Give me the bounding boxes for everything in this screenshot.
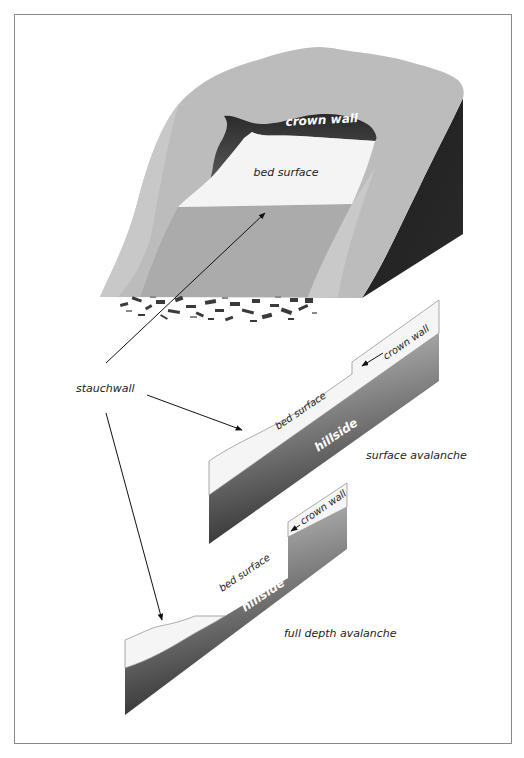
mountain-bed-surface-label: bed surface — [254, 166, 319, 179]
arrow-to-full-depth-profile — [106, 413, 162, 620]
mountain-block: crown wall bed surface — [100, 47, 464, 322]
hillside — [125, 507, 347, 715]
arrow-to-surface-profile — [147, 395, 242, 430]
stauchwall-label: stauchwall — [76, 382, 135, 395]
avalanche-diagram: crown wall bed surface bed surface hills… — [0, 0, 524, 758]
debris-field — [120, 296, 313, 322]
surface-avalanche-caption: surface avalanche — [366, 449, 467, 462]
full-depth-avalanche-profile: bed surface hillside crown wall full dep… — [125, 483, 397, 715]
full-depth-avalanche-caption: full depth avalanche — [284, 627, 397, 640]
